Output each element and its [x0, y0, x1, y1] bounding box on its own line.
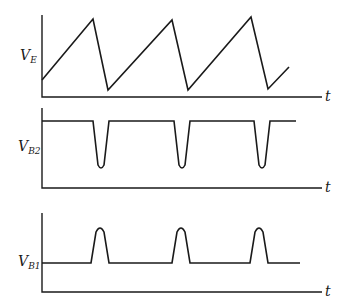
vb2-y-axis	[42, 108, 322, 188]
vb2-time-label: t	[325, 179, 331, 195]
ve-y-axis	[42, 15, 322, 97]
vb1-label: VB1	[18, 253, 40, 271]
panel-ve: VE t	[20, 15, 331, 104]
vb2-pulse-wave	[42, 121, 296, 168]
ve-label: VE	[20, 47, 37, 65]
panel-vb1: VB1 t	[18, 213, 331, 299]
vb2-label: VB2	[18, 138, 41, 156]
panel-vb2: VB2 t	[18, 108, 331, 195]
vb1-pulse-wave	[42, 228, 300, 263]
ve-time-label: t	[325, 88, 331, 104]
waveform-diagram: VE t VB2 t VB1 t	[0, 0, 350, 308]
ve-sawtooth-wave	[42, 17, 289, 90]
vb1-time-label: t	[325, 283, 331, 299]
vb1-y-axis	[42, 213, 322, 292]
